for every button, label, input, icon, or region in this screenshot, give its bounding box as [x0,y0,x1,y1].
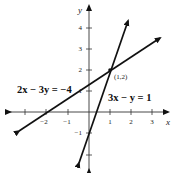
y-tick-label: 3 [79,45,83,53]
x-tick-label: 2 [129,118,133,126]
intersection-point [108,68,112,72]
x-tick-label: 1 [108,118,112,126]
x-tick-label: −2 [40,118,48,126]
equation-label-1: 2x − 3y = −4 [17,84,72,95]
x-tick-label: 3 [150,118,154,126]
y-tick-label: 2 [79,66,83,74]
equation-label-2: 3x − y = 1 [108,92,151,103]
y-axis-label: y [77,5,82,15]
x-axis-label: x [165,117,170,127]
graph: −2 −1 1 2 3 x 4 3 2 1 −1 y (1,2) 2x − 3y… [0,0,174,173]
y-tick-label: −1 [75,129,83,137]
x-tick-label: −1 [63,118,71,126]
intersection-label: (1,2) [114,73,128,81]
y-tick-label: 4 [79,24,83,32]
y-axis [86,6,92,170]
